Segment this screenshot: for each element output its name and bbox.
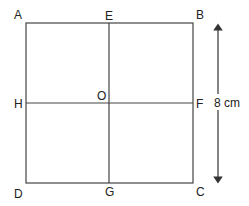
label-h: H (14, 97, 23, 111)
diagram-canvas: A E B H O F 8 cm D G C (0, 0, 249, 206)
label-g: G (105, 185, 114, 199)
label-c: C (196, 185, 205, 199)
label-d: D (14, 187, 23, 201)
label-b: B (196, 8, 204, 22)
label-o: O (97, 89, 106, 103)
label-a: A (14, 8, 22, 22)
label-f: F (196, 97, 203, 111)
label-e: E (105, 9, 113, 23)
dimension-label: 8 cm (214, 96, 240, 110)
